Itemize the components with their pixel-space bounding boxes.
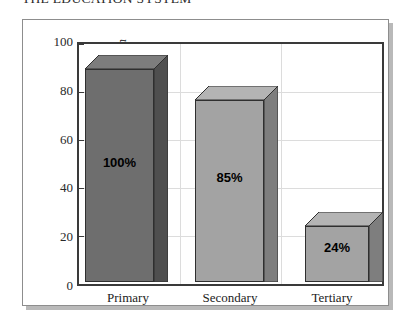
x-tick-label-primary: Primary	[77, 290, 179, 306]
y-tick-label: 40	[47, 180, 73, 196]
gridline-vertical	[180, 44, 181, 284]
y-tick-mark	[79, 236, 84, 237]
bar-value-label: 85%	[195, 170, 264, 185]
y-tick-label: 0	[47, 278, 73, 294]
y-axis-ticks: 100 80 60 40 20 0	[39, 42, 73, 286]
y-tick-label: 100	[47, 34, 73, 50]
bar-value-label: 100%	[85, 155, 154, 170]
y-tick-label: 60	[47, 132, 73, 148]
plot-area: 100% 85% 24%	[77, 42, 384, 286]
y-tick-mark	[79, 140, 84, 141]
y-tick-mark	[79, 188, 84, 189]
bar-secondary[interactable]: 85%	[195, 86, 278, 282]
chart-container: % of each age group in education 100 80 …	[22, 19, 389, 306]
y-tick-label: 80	[47, 83, 73, 99]
x-tick-label-tertiary: Tertiary	[281, 290, 383, 306]
x-tick-label-secondary: Secondary	[179, 290, 281, 306]
y-tick-mark	[79, 284, 84, 285]
bar-value-label: 24%	[305, 240, 369, 255]
y-tick-label: 20	[47, 229, 73, 245]
y-tick-mark	[79, 44, 84, 45]
bar-primary[interactable]: 100%	[85, 55, 168, 282]
bar-front-face	[195, 100, 264, 282]
bar-tertiary[interactable]: 24%	[305, 212, 383, 282]
y-tick-mark	[79, 92, 84, 93]
bar-front-face	[85, 69, 154, 282]
gridline-vertical	[281, 44, 282, 284]
chart-title: THE EDUCATION SYSTEM	[22, 0, 192, 7]
